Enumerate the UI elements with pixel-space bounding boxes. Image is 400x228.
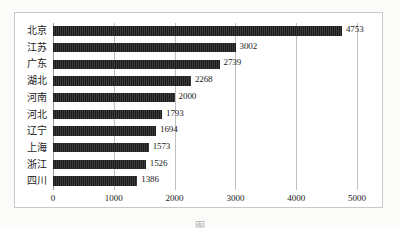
bar [53,26,342,35]
bar [53,126,156,135]
category-label: 四川 [27,173,47,188]
bar-row: 上海1573 [53,140,357,157]
bar-row: 江苏3002 [53,40,357,57]
x-tick-label: 3000 [226,193,244,203]
bar-row: 辽宁1694 [53,123,357,140]
x-tick-label: 5000 [348,193,366,203]
gridline-5000 [357,23,358,190]
bar-value-label: 4753 [346,24,364,34]
x-tick-label: 0 [51,193,56,203]
bar-value-label: 1573 [153,141,171,151]
category-label: 北京 [27,23,47,38]
bar [53,160,146,169]
figure-caption-text: 图 [195,218,205,228]
bar-row: 四川1386 [53,173,357,190]
x-tick-label: 1000 [105,193,123,203]
bar-value-label: 2268 [195,74,213,84]
bar-row: 广东2739 [53,56,357,73]
bar-value-label: 2000 [179,91,197,101]
category-label: 广东 [27,56,47,71]
category-label: 河北 [27,107,47,122]
bar-value-label: 1526 [150,158,168,168]
bar [53,176,137,185]
bar-row: 北京4753 [53,23,357,40]
bar-value-label: 3002 [240,41,258,51]
bar-value-label: 1386 [141,174,159,184]
bar [53,143,149,152]
category-label: 河南 [27,90,47,105]
bar-value-label: 1793 [166,108,184,118]
category-label: 江苏 [27,40,47,55]
plot-area: 北京4753江苏3002广东2739湖北2268河南2000河北1793辽宁16… [53,23,357,190]
x-tick-label: 2000 [166,193,184,203]
category-label: 上海 [27,140,47,155]
bar [53,43,236,52]
bar [53,76,191,85]
bar-row: 河北1793 [53,107,357,124]
x-tick-label: 4000 [287,193,305,203]
bar-value-label: 2739 [224,57,242,67]
bar [53,110,162,119]
bar-row: 浙江1526 [53,157,357,174]
category-label: 湖北 [27,73,47,88]
bar [53,93,175,102]
category-label: 浙江 [27,157,47,172]
category-label: 辽宁 [27,123,47,138]
figure-caption: 图 [0,216,400,228]
x-axis-tick-labels: 010002000300040005000 [53,193,357,207]
chart-frame: 北京4753江苏3002广东2739湖北2268河南2000河北1793辽宁16… [14,12,383,208]
figure-page: 北京4753江苏3002广东2739湖北2268河南2000河北1793辽宁16… [0,0,400,228]
bar-row: 河南2000 [53,90,357,107]
bar-row: 湖北2268 [53,73,357,90]
bar-value-label: 1694 [160,124,178,134]
bar [53,60,220,69]
